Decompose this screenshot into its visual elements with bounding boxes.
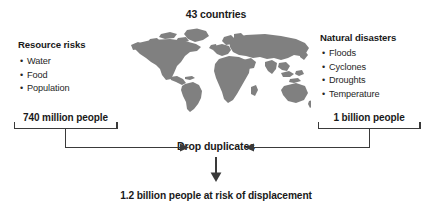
list-item-label: Population	[27, 83, 69, 93]
list-item-label: Floods	[329, 48, 356, 58]
list-item-label: Cyclones	[329, 62, 366, 72]
result-label: 1.2 billion people at risk of displaceme…	[0, 190, 432, 201]
list-item-label: Food	[27, 70, 48, 80]
list-item-label: Droughts	[329, 75, 365, 85]
right-group-heading: Natural disasters	[320, 32, 396, 43]
world-map-icon	[131, 27, 311, 113]
list-item: • Food	[20, 70, 69, 84]
left-group-heading: Resource risks	[18, 39, 85, 50]
list-item: • Cyclones	[322, 62, 379, 76]
bullet-icon: •	[322, 49, 329, 58]
merge-step-label: Drop duplicates	[156, 140, 276, 152]
right-group-total: 1 billion people	[318, 112, 420, 123]
bullet-icon: •	[20, 71, 27, 80]
list-item-label: Temperature	[329, 89, 379, 99]
bullet-icon: •	[322, 76, 329, 85]
bullet-icon: •	[322, 63, 329, 72]
right-group-bullets: • Floods • Cyclones • Droughts • Tempera…	[322, 48, 379, 102]
bullet-icon: •	[322, 90, 329, 99]
list-item: • Temperature	[322, 89, 379, 103]
list-item: • Droughts	[322, 75, 379, 89]
list-item: • Floods	[322, 48, 379, 62]
left-group-bullets: • Water • Food • Population	[20, 56, 69, 97]
bullet-icon: •	[20, 84, 27, 93]
down-arrowhead	[211, 173, 222, 183]
left-group-total: 740 million people	[14, 112, 117, 123]
list-item: • Population	[20, 83, 69, 97]
diagram-title: 43 countries	[0, 8, 432, 20]
world-map-svg	[131, 27, 311, 113]
list-item-label: Water	[27, 56, 51, 66]
list-item: • Water	[20, 56, 69, 70]
bullet-icon: •	[20, 57, 27, 66]
infographic-canvas: 43 countries	[0, 0, 432, 209]
